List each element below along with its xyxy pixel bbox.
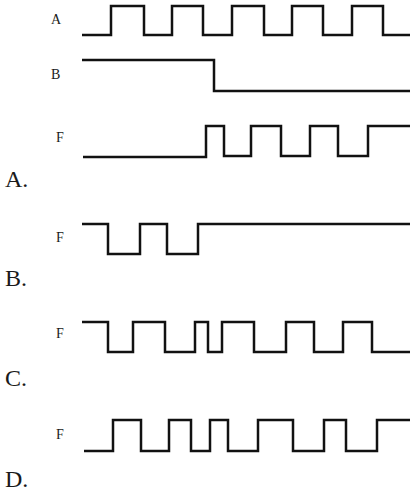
- waveform-canvas: [0, 0, 415, 495]
- f-label-option-c: F: [56, 327, 64, 341]
- waveform-option-c: [82, 322, 410, 352]
- option-b-letter[interactable]: B.: [5, 266, 27, 290]
- option-d-letter[interactable]: D.: [5, 467, 28, 491]
- signal-label-a: A: [51, 13, 61, 27]
- f-label-option-b: F: [56, 231, 64, 245]
- f-label-option-d: F: [56, 428, 64, 442]
- waveform-a: [82, 6, 410, 35]
- waveform-option-a: [83, 126, 410, 157]
- f-label-option-a: F: [56, 131, 64, 145]
- option-a-letter[interactable]: A.: [5, 167, 28, 191]
- waveform-option-d: [84, 420, 410, 451]
- waveform-b: [82, 60, 410, 91]
- option-c-letter[interactable]: C.: [5, 366, 27, 390]
- signal-label-b: B: [51, 68, 60, 82]
- waveform-option-b: [82, 224, 410, 254]
